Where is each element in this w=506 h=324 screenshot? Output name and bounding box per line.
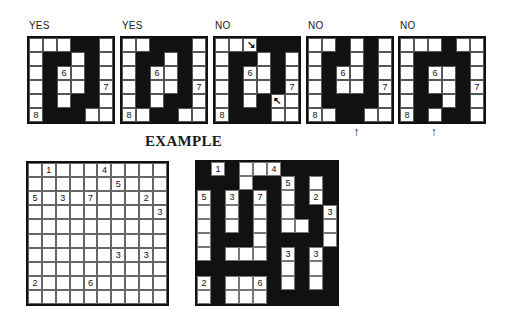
puzzle-cell[interactable] — [139, 276, 153, 290]
puzzle-cell[interactable] — [70, 219, 84, 233]
puzzle-cell[interactable] — [153, 290, 167, 304]
puzzle-cell[interactable] — [111, 205, 125, 219]
puzzle-cell[interactable] — [84, 234, 98, 248]
puzzle-cell[interactable] — [56, 163, 70, 177]
puzzle-grid-unsolved[interactable]: 145537233326 — [26, 161, 169, 306]
puzzle-cell[interactable] — [139, 290, 153, 304]
puzzle-cell[interactable] — [153, 248, 167, 262]
puzzle-cell[interactable] — [70, 163, 84, 177]
puzzle-cell[interactable] — [42, 290, 56, 304]
puzzle-cell[interactable] — [28, 248, 42, 262]
puzzle-cell[interactable] — [70, 177, 84, 191]
puzzle-cell[interactable] — [56, 219, 70, 233]
puzzle-cell[interactable] — [97, 191, 111, 205]
puzzle-cell[interactable] — [56, 290, 70, 304]
puzzle-cell[interactable] — [84, 163, 98, 177]
puzzle-cell[interactable] — [28, 205, 42, 219]
puzzle-cell[interactable] — [97, 276, 111, 290]
puzzle-cell[interactable] — [111, 219, 125, 233]
puzzle-cell[interactable] — [139, 205, 153, 219]
puzzle-cell[interactable] — [139, 177, 153, 191]
puzzle-cell[interactable] — [97, 219, 111, 233]
puzzle-cell[interactable]: 6 — [84, 276, 98, 290]
puzzle-cell[interactable] — [84, 219, 98, 233]
puzzle-cell[interactable] — [84, 205, 98, 219]
puzzle-cell[interactable]: 2 — [139, 191, 153, 205]
puzzle-cell[interactable] — [139, 234, 153, 248]
puzzle-cell[interactable] — [70, 205, 84, 219]
puzzle-cell[interactable] — [125, 290, 139, 304]
puzzle-cell[interactable]: 5 — [111, 177, 125, 191]
puzzle-cell[interactable] — [56, 234, 70, 248]
puzzle-cell[interactable]: 3 — [56, 191, 70, 205]
puzzle-cell[interactable] — [70, 276, 84, 290]
puzzle-cell[interactable] — [28, 290, 42, 304]
puzzle-cell[interactable] — [139, 262, 153, 276]
puzzle-cell[interactable] — [125, 163, 139, 177]
puzzle-cell[interactable] — [28, 177, 42, 191]
puzzle-cell[interactable] — [42, 205, 56, 219]
puzzle-cell[interactable] — [56, 177, 70, 191]
puzzle-cell[interactable]: 4 — [97, 163, 111, 177]
puzzle-cell[interactable] — [70, 248, 84, 262]
puzzle-cell[interactable] — [28, 219, 42, 233]
puzzle-cell[interactable] — [111, 191, 125, 205]
puzzle-cell[interactable]: 7 — [84, 191, 98, 205]
puzzle-cell[interactable] — [28, 234, 42, 248]
puzzle-cell[interactable] — [70, 262, 84, 276]
puzzle-cell[interactable] — [153, 163, 167, 177]
puzzle-cell[interactable] — [139, 219, 153, 233]
puzzle-cell[interactable] — [70, 290, 84, 304]
puzzle-cell[interactable] — [111, 290, 125, 304]
puzzle-cell[interactable] — [111, 163, 125, 177]
puzzle-cell[interactable] — [42, 219, 56, 233]
puzzle-cell[interactable] — [97, 248, 111, 262]
puzzle-cell[interactable]: 3 — [153, 205, 167, 219]
puzzle-cell[interactable] — [84, 248, 98, 262]
puzzle-cell[interactable]: 5 — [28, 191, 42, 205]
puzzle-cell[interactable] — [153, 276, 167, 290]
puzzle-cell[interactable] — [70, 234, 84, 248]
puzzle-cell[interactable] — [42, 276, 56, 290]
puzzle-cell[interactable] — [111, 276, 125, 290]
puzzle-cell[interactable] — [56, 262, 70, 276]
puzzle-cell[interactable] — [56, 205, 70, 219]
puzzle-cell[interactable] — [153, 234, 167, 248]
puzzle-cell[interactable] — [125, 219, 139, 233]
puzzle-cell[interactable] — [42, 177, 56, 191]
puzzle-cell[interactable]: 3 — [111, 248, 125, 262]
puzzle-cell[interactable] — [97, 290, 111, 304]
puzzle-cell[interactable] — [139, 163, 153, 177]
puzzle-cell[interactable] — [125, 205, 139, 219]
puzzle-cell[interactable] — [153, 219, 167, 233]
puzzle-cell[interactable] — [84, 177, 98, 191]
puzzle-cell[interactable] — [42, 248, 56, 262]
puzzle-cell[interactable] — [42, 191, 56, 205]
puzzle-cell[interactable] — [97, 234, 111, 248]
puzzle-cell[interactable] — [28, 163, 42, 177]
puzzle-cell[interactable] — [125, 248, 139, 262]
puzzle-cell[interactable] — [56, 248, 70, 262]
puzzle-cell[interactable] — [153, 191, 167, 205]
puzzle-cell[interactable] — [84, 290, 98, 304]
puzzle-cell[interactable] — [111, 262, 125, 276]
puzzle-cell[interactable] — [70, 191, 84, 205]
puzzle-cell[interactable] — [125, 262, 139, 276]
puzzle-cell[interactable] — [97, 205, 111, 219]
puzzle-cell[interactable]: 2 — [28, 276, 42, 290]
puzzle-cell[interactable]: 3 — [139, 248, 153, 262]
puzzle-cell[interactable] — [125, 177, 139, 191]
puzzle-cell[interactable] — [56, 276, 70, 290]
puzzle-cell[interactable] — [153, 262, 167, 276]
puzzle-cell[interactable] — [153, 177, 167, 191]
puzzle-cell[interactable] — [125, 234, 139, 248]
puzzle-cell[interactable] — [42, 234, 56, 248]
puzzle-cell[interactable] — [97, 262, 111, 276]
puzzle-cell[interactable] — [111, 234, 125, 248]
puzzle-cell[interactable] — [28, 262, 42, 276]
puzzle-cell[interactable] — [84, 262, 98, 276]
puzzle-cell[interactable] — [97, 177, 111, 191]
puzzle-cell[interactable] — [125, 191, 139, 205]
puzzle-cell[interactable]: 1 — [42, 163, 56, 177]
puzzle-cell[interactable] — [125, 276, 139, 290]
